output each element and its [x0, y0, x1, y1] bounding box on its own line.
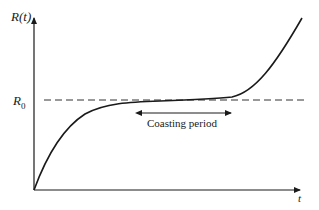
diagram-canvas — [0, 0, 319, 210]
reference-level-symbol: R — [13, 93, 21, 108]
expansion-curve — [34, 18, 302, 190]
reference-level-label: R0 — [13, 93, 25, 111]
y-axis-label: R(t) — [11, 9, 31, 25]
reference-level-subscript: 0 — [21, 101, 26, 111]
coasting-period-label: Coasting period — [147, 117, 217, 129]
x-axis-label: t — [298, 192, 301, 204]
